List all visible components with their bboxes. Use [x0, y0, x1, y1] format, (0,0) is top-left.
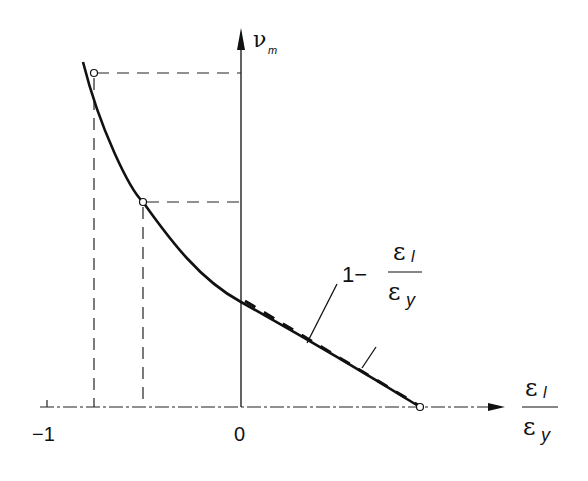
annotation-prefix: 1−	[342, 262, 367, 287]
diagram-canvas: ν m −1 0 ε l ε y 1− ε l ε y	[0, 0, 588, 481]
annotation-num-sub: l	[411, 248, 415, 265]
point-marker	[417, 404, 424, 411]
x-label-den-sub: y	[539, 425, 551, 445]
y-axis-arrow-icon	[237, 28, 245, 50]
x-label-den: ε	[523, 413, 535, 441]
point-marker	[140, 199, 147, 206]
y-axis-label-sub: m	[268, 44, 277, 56]
guide-lines	[94, 73, 241, 407]
nu-m-curve	[83, 62, 420, 407]
annotation-den-sub: y	[404, 290, 416, 310]
tick-label-minus-one: −1	[32, 423, 55, 445]
annotation-leader-1	[307, 284, 337, 343]
annotation-leader-2	[362, 347, 376, 368]
tick-label-zero: 0	[234, 423, 245, 445]
x-axis-arrow-icon	[488, 403, 505, 411]
annotation-num: ε	[393, 238, 405, 266]
y-axis-label: ν	[253, 27, 266, 52]
point-marker	[91, 70, 98, 77]
annotation-den: ε	[388, 278, 400, 306]
x-label-num-sub: l	[543, 384, 547, 401]
x-label-num: ε	[525, 374, 537, 402]
